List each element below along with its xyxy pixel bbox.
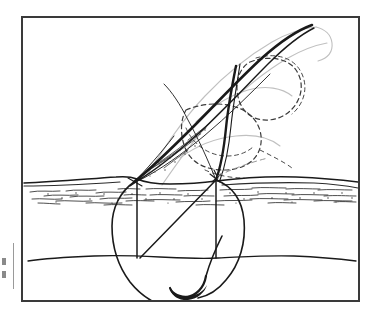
figure-page: [0, 0, 373, 314]
margin-text-fragment-top: [2, 258, 6, 265]
margin-rule: [13, 243, 14, 289]
margin-text-fragment-bottom: [2, 271, 6, 278]
figure-frame: [21, 16, 360, 302]
